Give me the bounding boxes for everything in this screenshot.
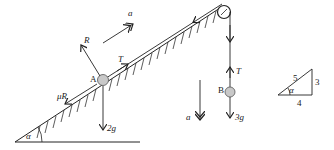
particle-b-label: B [218, 85, 224, 95]
triangle-hypotenuse: 5 [293, 73, 298, 83]
acceleration-arrow [103, 24, 133, 43]
reference-triangle: 5 3 4 α [278, 69, 320, 108]
triangle-opposite: 3 [315, 77, 320, 87]
normal-label: R [83, 35, 90, 45]
particle-a-label: A [90, 74, 97, 84]
angle-label: α [26, 131, 31, 141]
triangle-angle: α [289, 85, 294, 95]
acceleration-label: a [128, 8, 133, 18]
friction-arrow [65, 84, 97, 104]
angle-arc [38, 127, 42, 142]
tension-a-arrow [117, 64, 128, 71]
particle-a [98, 75, 109, 86]
particle-b [225, 87, 235, 97]
tension-a-label: T [118, 54, 124, 64]
triangle-adjacent: 4 [297, 98, 302, 108]
acceleration-b-label: a [186, 112, 191, 122]
friction-label: μR [56, 91, 68, 101]
weight-a-label: 2g [107, 123, 117, 133]
tension-b-label: T [236, 66, 242, 76]
weight-b-label: 3g [234, 112, 245, 122]
pulley-diagram: α T B 3g a A R T μR 2g a 5 3 4 α [0, 0, 334, 150]
normal-arrow [81, 45, 100, 76]
